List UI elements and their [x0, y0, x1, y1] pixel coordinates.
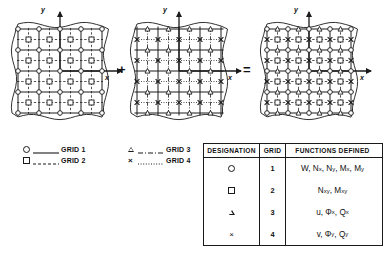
- operator-plus: +: [118, 62, 126, 77]
- legend-group-left: GRID 1 GRID 2: [23, 144, 86, 166]
- panel-right-y-label: y: [294, 6, 298, 13]
- functions-table: DESIGNATION GRID FUNCTIONS DEFINED 1W, N…: [203, 143, 383, 246]
- triangle-icon: [204, 202, 260, 224]
- triangle-icon: [128, 147, 138, 152]
- cell-functions-defined: Nxy , Mxy: [286, 180, 382, 202]
- legend-label-grid2: GRID 2: [61, 157, 86, 164]
- cell-functions-defined: u, Φx, Qx: [286, 202, 382, 224]
- cell-functions-defined: v, Φy, Qy: [286, 223, 382, 245]
- figure-root: y x y x y x + = GRID 1 GRID 2: [0, 0, 385, 253]
- circle-icon: [204, 158, 260, 180]
- panel-left-x-label: x: [105, 74, 109, 81]
- table-row: ×4v, Φy, Qy: [204, 223, 382, 245]
- cell-grid-number: 4: [260, 223, 286, 245]
- square-icon: [204, 180, 260, 202]
- legend-group-right: GRID 3 × GRID 4: [128, 144, 191, 166]
- legend-item-grid2: GRID 2: [23, 155, 86, 166]
- table-header-row: DESIGNATION GRID FUNCTIONS DEFINED: [204, 144, 382, 158]
- table-body: 1W, Nx, Ny, Mx, My2Nxy , Mxy3u, Φx, Qx×4…: [204, 158, 382, 245]
- table-row: 1W, Nx, Ny, Mx, My: [204, 158, 382, 180]
- legend-label-grid4: GRID 4: [166, 157, 191, 164]
- cross-icon: ×: [204, 223, 260, 245]
- square-icon: [23, 157, 33, 164]
- legend-item-grid3: GRID 3: [128, 144, 191, 155]
- panel-right-x-label: x: [360, 74, 364, 81]
- legend-item-grid1: GRID 1: [23, 144, 86, 155]
- cell-functions-defined: W, Nx, Ny, Mx, My: [286, 158, 382, 180]
- panel-left-y-label: y: [41, 6, 45, 13]
- operator-equals: =: [243, 62, 251, 77]
- legend-item-grid4: × GRID 4: [128, 155, 191, 166]
- table-row: 2Nxy , Mxy: [204, 180, 382, 202]
- header-grid: GRID: [260, 144, 286, 157]
- cell-grid-number: 1: [260, 158, 286, 180]
- header-functions: FUNCTIONS DEFINED: [286, 144, 382, 157]
- header-designation: DESIGNATION: [204, 144, 260, 157]
- cell-grid-number: 3: [260, 202, 286, 224]
- circle-icon: [23, 146, 33, 153]
- legend-label-grid3: GRID 3: [166, 146, 191, 153]
- panel-middle-y-label: y: [163, 6, 167, 13]
- table-row: 3u, Φx, Qx: [204, 202, 382, 224]
- cell-grid-number: 2: [260, 180, 286, 202]
- legend-label-grid1: GRID 1: [61, 146, 86, 153]
- cross-icon: ×: [128, 158, 138, 163]
- panel-middle-x-label: x: [228, 74, 232, 81]
